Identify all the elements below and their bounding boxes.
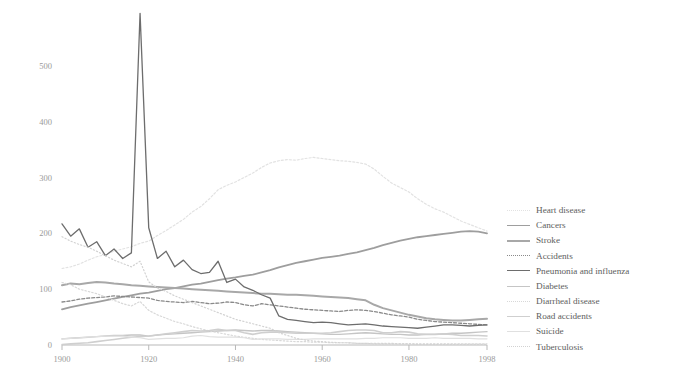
y-tick-label: 400 [39,117,52,127]
legend-item-label: Diarrheal disease [536,297,600,306]
legend-item-label: Stroke [536,236,560,245]
y-tick-label: 0 [48,340,52,350]
legend-item[interactable]: Accidents [507,249,675,264]
x-tick-label: 1940 [227,354,244,364]
series-line [62,296,487,325]
series-line [62,237,487,345]
series-line [62,13,487,328]
series-layer [62,13,487,344]
series-line [62,282,487,321]
legend-item[interactable]: Diabetes [507,279,675,294]
legend-item-label: Road accidents [536,312,592,321]
chart-legend: Heart diseaseCancersStrokeAccidentsPneum… [507,203,675,355]
legend-item[interactable]: Suicide [507,325,675,340]
legend-item-label: Tuberculosis [536,343,583,352]
legend-item[interactable]: Road accidents [507,309,675,324]
x-tick-label: 1980 [400,354,417,364]
y-axis: 0100200300400500 [39,61,52,350]
legend-item[interactable]: Stroke [507,233,675,248]
y-tick-label: 100 [39,284,52,294]
legend-item-label: Pneumonia and influenza [536,267,629,276]
x-tick-label: 1998 [479,354,496,364]
x-tick-label: 1920 [140,354,157,364]
x-tick-label: 1900 [54,354,71,364]
legend-item[interactable]: Diarrheal disease [507,294,675,309]
legend-item[interactable]: Cancers [507,218,675,233]
legend-item-label: Heart disease [536,206,585,215]
legend-item-label: Cancers [536,221,566,230]
legend-item[interactable]: Pneumonia and influenza [507,264,675,279]
x-tick-label: 1960 [314,354,331,364]
series-line [62,231,487,309]
x-axis: 190019201940196019801998 [54,345,496,364]
legend-item-label: Accidents [536,252,573,261]
legend-item-label: Suicide [536,327,564,336]
chart-page: 0100200300400500 19001920194019601980199… [0,0,678,389]
y-tick-label: 500 [39,61,52,71]
series-line [62,157,487,268]
legend-item[interactable]: Tuberculosis [507,340,675,355]
legend-item-label: Diabetes [536,282,568,291]
y-tick-label: 200 [39,228,52,238]
y-tick-label: 300 [39,173,52,183]
legend-item[interactable]: Heart disease [507,203,675,218]
